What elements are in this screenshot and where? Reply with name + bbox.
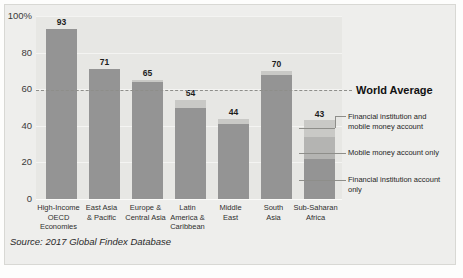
y-tick-20: 20 [21, 157, 32, 167]
bar-value-label: 71 [89, 58, 120, 67]
segment-mm-only [304, 137, 335, 159]
segment-fi-and-mm [218, 119, 249, 125]
bar-value-label: 93 [46, 18, 77, 27]
leader-line-fi-and-mm-vert [335, 116, 336, 128]
bar-rect [175, 100, 206, 199]
bar-rect [218, 119, 249, 200]
y-tick-60: 60 [21, 84, 32, 94]
bar-latin-america-caribbean[interactable]: 54 [175, 16, 206, 199]
leader-line-fi-only [299, 180, 346, 181]
segment-fi-only [46, 29, 77, 199]
segment-fi-and-mm [132, 80, 163, 82]
y-tick-0: 0 [27, 194, 32, 204]
world-average-line [36, 90, 352, 91]
segment-fi-only [175, 108, 206, 200]
bar-rect [132, 80, 163, 199]
segment-fi-and-mm [261, 71, 292, 75]
x-axis-baseline [36, 199, 342, 200]
bar-sub-saharan-africa[interactable]: 43 [304, 16, 335, 199]
plot-area: 93 71 65 54 [36, 16, 342, 199]
y-tick-100: 100% [8, 11, 32, 21]
leader-line-mm-only [299, 153, 346, 154]
segment-fi-and-mm [175, 100, 206, 107]
cat-line: Africa [288, 213, 343, 223]
bar-value-label: 65 [132, 69, 163, 78]
segment-fi-only [132, 82, 163, 199]
bar-rect [89, 69, 120, 199]
bar-rect [304, 120, 335, 199]
y-tick-80: 80 [21, 48, 32, 58]
leader-line-fi-and-mm [299, 128, 335, 129]
bar-high-income-oecd[interactable]: 93 [46, 16, 77, 199]
y-tick-40: 40 [21, 121, 32, 131]
legend-label-fi-only: Financial institution account only [348, 175, 448, 194]
bar-rect [46, 29, 77, 199]
source-note: Source: 2017 Global Findex Database [10, 236, 171, 247]
cat-label-high-income-oecd: High-Income OECD Economies [34, 203, 83, 232]
bar-europe-central-asia[interactable]: 65 [132, 16, 163, 199]
cat-line: OECD [34, 213, 83, 223]
cat-line: Caribbean [163, 222, 212, 232]
legend-label-fi-and-mm: Financial institution and mobile money a… [348, 112, 448, 131]
cat-label-latin-america-caribbean: Latin America & Caribbean [163, 203, 212, 232]
bar-east-asia-pacific[interactable]: 71 [89, 16, 120, 199]
bar-value-label: 70 [261, 60, 292, 69]
y-axis: 100% 80 60 40 20 0 [0, 16, 32, 199]
cat-line: Middle [206, 203, 255, 213]
segment-fi-only [261, 75, 292, 199]
bar-value-label: 44 [218, 108, 249, 117]
cat-label-middle-east: Middle East [206, 203, 255, 222]
segment-fi-only [304, 159, 335, 199]
cat-line: Economies [34, 222, 83, 232]
bar-south-asia[interactable]: 70 [261, 16, 292, 199]
cat-line: America & [163, 213, 212, 223]
cat-line: Sub-Saharan [288, 203, 343, 213]
leader-line-fi-and-mm-top [335, 116, 346, 117]
cat-line: Latin [163, 203, 212, 213]
bar-middle-east[interactable]: 44 [218, 16, 249, 199]
segment-fi-only [218, 124, 249, 199]
bar-value-label: 43 [304, 110, 335, 119]
cat-label-sub-saharan-africa: Sub-Saharan Africa [288, 203, 343, 222]
cat-line: East [206, 213, 255, 223]
world-average-label: World Average [356, 84, 433, 96]
chart-figure: 100% 80 60 40 20 0 93 71 [0, 0, 463, 278]
legend-label-mm-only: Mobile money account only [348, 148, 448, 158]
cat-line: High-Income [34, 203, 83, 213]
segment-fi-only [89, 69, 120, 199]
